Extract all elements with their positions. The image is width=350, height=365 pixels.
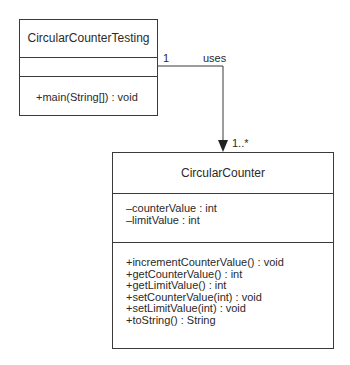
operation: +main(String[]) : void (20, 77, 157, 104)
operation: +setLimitValue(int) : void (126, 303, 333, 315)
source-multiplicity: 1 (163, 52, 169, 64)
operations-section: +main(String[]) : void (20, 76, 157, 115)
class-circular-counter[interactable]: CircularCounter –counterValue : int –lim… (112, 152, 334, 349)
operations-section: +incrementCounterValue() : void +getCoun… (113, 242, 333, 348)
attributes-section: –counterValue : int –limitValue : int (113, 193, 333, 242)
operation: +toString() : String (126, 315, 333, 327)
operation: +getLimitValue() : int (126, 280, 333, 292)
class-name-section: CircularCounter (113, 153, 333, 193)
attribute: –counterValue : int (126, 203, 333, 215)
association-label: uses (203, 52, 226, 64)
attribute: –limitValue : int (126, 215, 333, 227)
arrowhead-icon (218, 140, 228, 152)
operation: +incrementCounterValue() : void (126, 257, 333, 269)
class-circular-counter-testing[interactable]: CircularCounterTesting +main(String[]) :… (19, 19, 158, 116)
class-name-section: CircularCounterTesting (20, 20, 157, 58)
class-name: CircularCounter (113, 153, 333, 180)
class-name: CircularCounterTesting (20, 20, 157, 45)
attributes-section (20, 57, 157, 77)
target-multiplicity: 1..* (232, 137, 249, 149)
